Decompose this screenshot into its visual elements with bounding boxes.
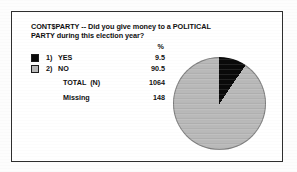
legend-item-yes: 1) YES 9.5 [31, 52, 165, 63]
legend-item-label: YES [58, 53, 72, 62]
figure-page: CONT$PARTY -- Did you give money to a PO… [0, 0, 297, 172]
pie-slice-no [173, 57, 266, 150]
legend-item-label: NO [58, 64, 69, 73]
black-swatch-icon [31, 54, 39, 62]
summary-label: Missing [63, 93, 90, 102]
summary-value: 1064 [131, 78, 165, 87]
legend-item-number: 1) [46, 53, 58, 62]
legend-item-number: 2) [46, 64, 58, 73]
pie-chart [173, 57, 266, 150]
chart-frame: CONT$PARTY -- Did you give money to a PO… [11, 11, 283, 162]
summary-value: 148 [131, 93, 165, 102]
legend-item-no: 2) NO 90.5 [31, 63, 165, 74]
legend: 1) YES 9.5 2) NO 90.5 [31, 52, 165, 74]
summary-row-missing: Missing 148 [31, 93, 165, 108]
legend-item-value: 90.5 [131, 64, 165, 73]
percent-column-header: % [130, 42, 164, 51]
gray-swatch-icon [31, 65, 39, 73]
summary-label: TOTAL (N) [63, 78, 100, 87]
legend-item-value: 9.5 [131, 53, 165, 62]
summary-table: TOTAL (N) 1064 Missing 148 [31, 78, 165, 108]
summary-row-total: TOTAL (N) 1064 [31, 78, 165, 93]
pie-slice-yes [173, 57, 266, 150]
page-title: CONT$PARTY -- Did you give money to a PO… [31, 22, 231, 41]
